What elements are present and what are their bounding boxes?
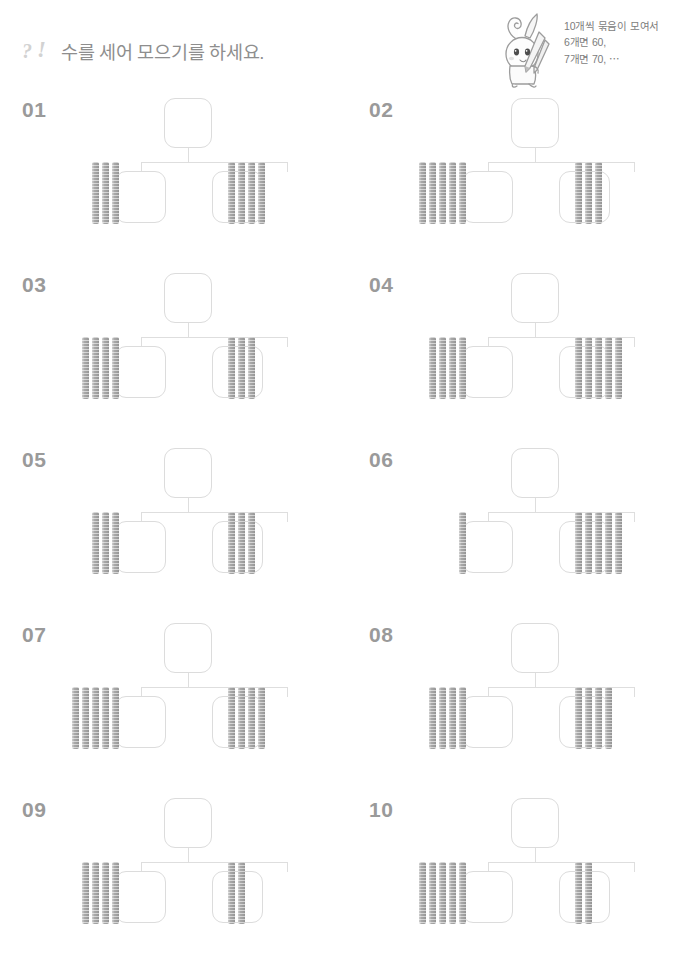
ten-bundle-stick [238, 512, 245, 574]
connector-stem-right [287, 337, 288, 347]
bundle-group-left [429, 337, 466, 399]
answer-box-left[interactable] [462, 696, 513, 748]
ten-bundle-stick [248, 512, 255, 574]
ten-bundle-stick [575, 162, 582, 224]
ten-bundle-stick [575, 337, 582, 399]
ten-bundle-stick [72, 687, 79, 749]
ten-bundle-stick [605, 687, 612, 749]
ten-bundle-stick [238, 687, 245, 749]
ten-bundle-stick [459, 162, 466, 224]
connector-stem-right [287, 162, 288, 172]
answer-box-total[interactable] [511, 798, 559, 848]
connector-stem-right [634, 687, 635, 697]
page-title-text: 수를 세어 모으기를 하세요. [61, 38, 264, 64]
ten-bundle-stick [112, 687, 119, 749]
ten-bundle-stick [459, 337, 466, 399]
ten-bundle-stick [449, 862, 456, 924]
ten-bundle-stick [459, 862, 466, 924]
speech-line: 7개면 70, ⋯ [564, 51, 686, 67]
ten-bundle-stick [575, 512, 582, 574]
answer-box-left[interactable] [462, 346, 513, 398]
ten-bundle-stick [112, 862, 119, 924]
problem-cell-06: 06 [347, 442, 694, 617]
answer-box-total[interactable] [511, 98, 559, 148]
connector-stem-right [634, 162, 635, 172]
connector-stem-top [188, 498, 189, 512]
answer-box-total[interactable] [164, 273, 212, 323]
ten-bundle-stick [238, 337, 245, 399]
problem-row: 09 10 [0, 792, 694, 952]
ten-bundle-stick [615, 512, 622, 574]
ten-bundle-stick [112, 512, 119, 574]
answer-box-left[interactable] [115, 521, 166, 573]
problem-row: 03 04 [0, 267, 694, 442]
ten-bundle-stick [248, 162, 255, 224]
answer-box-total[interactable] [164, 448, 212, 498]
exclamation-mark-glyph: ! [37, 38, 46, 61]
answer-box-left[interactable] [115, 871, 166, 923]
answer-box-left[interactable] [462, 521, 513, 573]
answer-box-left[interactable] [115, 696, 166, 748]
connector-stem-top [535, 673, 536, 687]
answer-box-total[interactable] [511, 448, 559, 498]
ten-bundle-stick [228, 687, 235, 749]
ten-bundle-stick [585, 687, 592, 749]
problem-cell-10: 10 [347, 792, 694, 952]
answer-box-left[interactable] [462, 171, 513, 223]
ten-bundle-stick [258, 687, 265, 749]
ten-bundle-stick [585, 862, 592, 924]
connector-stem-top [188, 673, 189, 687]
ten-bundle-stick [439, 687, 446, 749]
bundle-group-right [228, 337, 255, 399]
answer-box-total[interactable] [511, 623, 559, 673]
speech-line: 10개씩 묶음이 모여서 [564, 18, 686, 34]
connector-stem-top [535, 148, 536, 162]
bundle-group-right [575, 512, 622, 574]
ten-bundle-stick [258, 162, 265, 224]
answer-box-total[interactable] [511, 273, 559, 323]
connector-stem-top [535, 498, 536, 512]
ten-bundle-stick [439, 862, 446, 924]
number-bond-diagram [40, 96, 335, 224]
ten-bundle-stick [248, 687, 255, 749]
bundle-group-left [92, 512, 119, 574]
ten-bundle-stick [102, 687, 109, 749]
bundle-group-left [459, 512, 466, 574]
bundle-group-left [72, 687, 119, 749]
ten-bundle-stick [585, 162, 592, 224]
answer-box-total[interactable] [164, 798, 212, 848]
bundle-group-left [82, 862, 119, 924]
connector-bar [488, 862, 635, 863]
ten-bundle-stick [459, 687, 466, 749]
ten-bundle-stick [82, 687, 89, 749]
ten-bundle-stick [585, 337, 592, 399]
worksheet-header: ? ! 수를 세어 모으기를 하세요. [0, 0, 694, 92]
ten-bundle-stick [429, 162, 436, 224]
ten-bundle-stick [112, 337, 119, 399]
connector-bar [141, 512, 288, 513]
connector-stem-right [287, 862, 288, 872]
answer-box-total[interactable] [164, 98, 212, 148]
ten-bundle-stick [82, 862, 89, 924]
rabbit-mascot-icon [496, 10, 558, 88]
problem-cell-09: 09 [0, 792, 347, 952]
ten-bundle-stick [575, 862, 582, 924]
number-bond-diagram [40, 446, 335, 574]
connector-stem-right [634, 337, 635, 347]
answer-box-left[interactable] [115, 171, 166, 223]
ten-bundle-stick [112, 162, 119, 224]
bundle-group-right [228, 687, 265, 749]
ten-bundle-stick [92, 512, 99, 574]
ten-bundle-stick [575, 687, 582, 749]
ten-bundle-stick [439, 162, 446, 224]
connector-stem-top [188, 323, 189, 337]
ten-bundle-stick [615, 337, 622, 399]
problem-cell-02: 02 [347, 92, 694, 267]
answer-box-left[interactable] [115, 346, 166, 398]
question-mark-glyph: ? [22, 41, 32, 61]
answer-box-left[interactable] [462, 871, 513, 923]
connector-stem-top [535, 323, 536, 337]
ten-bundle-stick [449, 687, 456, 749]
answer-box-total[interactable] [164, 623, 212, 673]
ten-bundle-stick [92, 862, 99, 924]
